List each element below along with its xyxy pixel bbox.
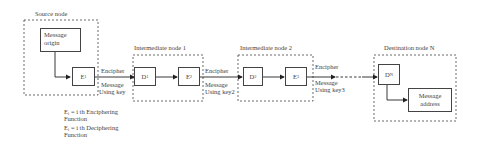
e3-box: E3 <box>285 67 307 86</box>
legend-dec-text: = i th Deciphering <box>69 124 118 131</box>
legend-enc-function: Function <box>64 115 87 123</box>
legend-enc-text: = i th Enciphering <box>69 108 118 115</box>
d2-sub: 2 <box>254 73 256 81</box>
message-origin-box: Message origin <box>40 28 81 52</box>
link3-key: Using key3 <box>315 86 345 94</box>
e3-sub: 3 <box>297 73 299 81</box>
link3-encipher: Encipher <box>315 63 338 71</box>
link2-encipher: Encipher <box>205 67 228 75</box>
e2-box: E2 <box>178 67 200 86</box>
legend-dec-function: Function <box>64 131 87 139</box>
e1-box: E1 <box>72 67 95 86</box>
dn-sub: N <box>390 71 393 79</box>
d1-sub: 1 <box>146 73 148 81</box>
d2-box: D2 <box>243 67 263 86</box>
link1-key: Using key <box>99 88 126 96</box>
intermediate2-title: Intermediate node 2 <box>240 44 292 52</box>
origin-to-e1-arrow <box>55 51 70 77</box>
dn-box: DN <box>378 64 400 85</box>
destination-title: Destination node N <box>384 44 435 52</box>
message-address-box: Message address <box>408 88 452 112</box>
e1-sub: 1 <box>84 73 86 81</box>
link2-key: Using key2 <box>205 88 235 96</box>
d1-box: D1 <box>134 67 156 86</box>
dn-to-address-arrow <box>387 85 407 100</box>
source-node-title: Source node <box>35 10 67 18</box>
link1-encipher: Encipher <box>101 67 124 75</box>
intermediate1-title: Intermediate node 1 <box>134 44 186 52</box>
e2-sub: 2 <box>190 73 192 81</box>
